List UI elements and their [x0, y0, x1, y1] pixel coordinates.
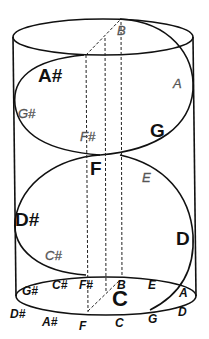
base-label-A: A: [179, 287, 188, 299]
dashed-vertical-2: [105, 38, 106, 293]
label-top-B: B: [117, 24, 126, 37]
upper-lobe-curve: [15, 19, 193, 155]
dashed-diagonal-top: [86, 20, 120, 55]
label-E: E: [142, 171, 151, 184]
outer-label-F: F: [79, 320, 86, 332]
dashed-vertical-3: [121, 22, 122, 278]
label-D-sharp: D#: [15, 210, 39, 229]
top-ellipse: [13, 19, 193, 55]
base-label-C: C: [112, 288, 128, 310]
outer-label-G: G: [148, 313, 157, 325]
label-G-sharp: G#: [18, 107, 35, 120]
label-F-sharp: F#: [80, 130, 95, 143]
dashed-vertical-1: [86, 55, 88, 312]
right-side: [193, 37, 196, 296]
label-A: A: [173, 77, 182, 90]
bottom-ellipse: [16, 277, 196, 315]
outer-label-D-sharp: D#: [10, 308, 25, 320]
label-A-sharp: A#: [38, 66, 62, 85]
base-label-G-sharp: G#: [22, 285, 38, 297]
base-label-C-sharp: C#: [52, 279, 67, 291]
left-side: [13, 37, 16, 296]
base-label-F-sharp: F#: [79, 279, 93, 291]
base-label-E: E: [148, 279, 156, 291]
label-G: G: [150, 121, 165, 140]
label-D: D: [176, 229, 190, 248]
label-C-sharp: C#: [45, 249, 62, 262]
outer-label-C: C: [115, 317, 124, 329]
outer-label-A-sharp: A#: [42, 316, 57, 328]
label-F: F: [90, 159, 102, 178]
outer-label-D: D: [178, 306, 187, 318]
